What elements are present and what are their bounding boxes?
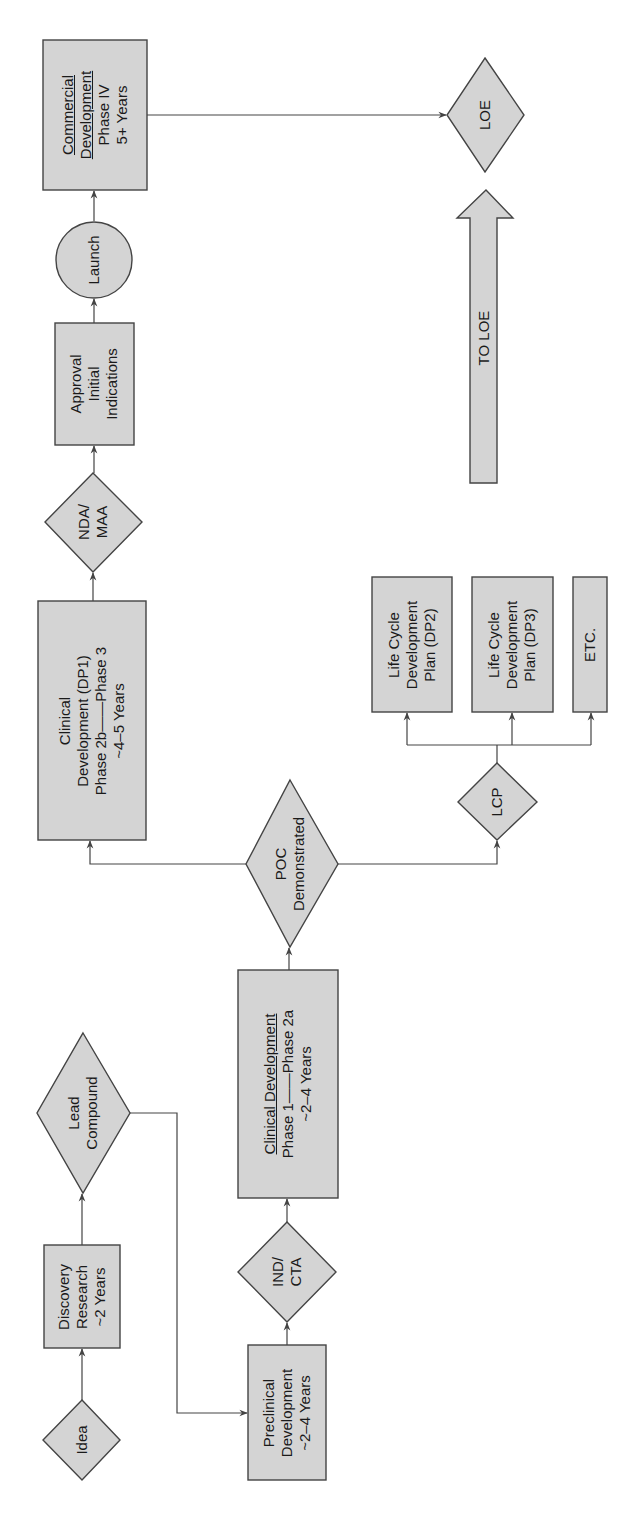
etc-text: ETC. bbox=[581, 628, 599, 662]
idea-label: Idea bbox=[73, 1410, 91, 1470]
lead-line-1: Lead bbox=[65, 1096, 83, 1129]
clinical-1-2a-label: Clinical Development Phase 1——Phase 2a ~… bbox=[260, 974, 316, 1194]
approval-line-3: Indications bbox=[103, 348, 121, 420]
discovery-line-3: ~2 Years bbox=[91, 1268, 109, 1327]
clinical-1-2a-line-2: Phase 1——Phase 2a bbox=[279, 1010, 297, 1158]
dp2-line-3: Plan (DP2) bbox=[421, 608, 439, 681]
lead-compound-label: Lead Compound bbox=[65, 1068, 101, 1158]
commercial-line-2: Development bbox=[77, 71, 95, 159]
dp3-line-3: Plan (DP3) bbox=[521, 608, 539, 681]
commercial-label: Commercial Development Phase IV 5+ Years bbox=[58, 55, 132, 175]
ind-line-1: IND/ bbox=[269, 1257, 287, 1287]
clinical-1-2a-line-1: Clinical Development bbox=[261, 1014, 279, 1155]
lcp-label: LCP bbox=[488, 782, 506, 822]
dp2-line-1: Life Cycle bbox=[385, 612, 403, 678]
ind-line-2: CTA bbox=[287, 1258, 305, 1287]
poc-line-2: Demonstrated bbox=[290, 817, 308, 911]
nda-line-1: NDA/ bbox=[75, 504, 93, 540]
approval-label: Approval Initial Indications bbox=[66, 329, 122, 439]
dp1-line-3: Phase 2b——Phase 3 bbox=[92, 647, 110, 795]
approval-line-1: Approval bbox=[67, 354, 85, 413]
preclinical-line-1: Preclinical bbox=[260, 1379, 278, 1447]
preclinical-line-2: Development bbox=[278, 1369, 296, 1457]
dp2-label: Life Cycle Development Plan (DP2) bbox=[384, 590, 440, 700]
dp1-line-1: Clinical bbox=[56, 697, 74, 745]
dp3-line-2: Development bbox=[503, 601, 521, 689]
edge-poc-dp1 bbox=[90, 841, 246, 864]
to-loe-text: TO LOE bbox=[475, 311, 493, 366]
discovery-line-2: Research bbox=[73, 1265, 91, 1329]
to-loe-label: TO LOE bbox=[475, 298, 493, 378]
clinical-dp1-label: Clinical Development (DP1) Phase 2b——Pha… bbox=[55, 608, 129, 834]
ind-cta-label: IND/ CTA bbox=[269, 1242, 305, 1302]
poc-line-1: POC bbox=[272, 848, 290, 881]
dp1-line-4: ~4–5 Years bbox=[110, 683, 128, 759]
clinical-1-2a-line-3: ~2–4 Years bbox=[297, 1046, 315, 1122]
commercial-line-1: Commercial bbox=[59, 75, 77, 155]
launch-label: Launch bbox=[85, 225, 103, 295]
dp3-line-1: Life Cycle bbox=[485, 612, 503, 678]
commercial-line-4: 5+ Years bbox=[113, 86, 131, 145]
dp3-label: Life Cycle Development Plan (DP3) bbox=[484, 590, 540, 700]
loe-label: LOE bbox=[476, 95, 494, 135]
preclinical-line-3: ~2–4 Years bbox=[296, 1375, 314, 1451]
discovery-label: Discovery Research ~2 Years bbox=[54, 1247, 110, 1347]
connectors bbox=[82, 115, 591, 1413]
nda-maa-label: NDA/ MAA bbox=[75, 492, 111, 552]
dp2-line-2: Development bbox=[403, 601, 421, 689]
lead-line-2: Compound bbox=[83, 1076, 101, 1149]
loe-text: LOE bbox=[476, 100, 494, 130]
poc-label: POC Demonstrated bbox=[272, 809, 308, 919]
edge-lead-preclinical bbox=[130, 1113, 247, 1413]
idea-text: Idea bbox=[73, 1425, 91, 1454]
etc-label: ETC. bbox=[581, 615, 599, 675]
lcp-text: LCP bbox=[488, 787, 506, 816]
edge-poc-lcp bbox=[338, 841, 497, 864]
launch-text: Launch bbox=[85, 235, 103, 284]
discovery-line-1: Discovery bbox=[55, 1264, 73, 1330]
nda-line-2: MAA bbox=[93, 506, 111, 539]
approval-line-2: Initial bbox=[85, 366, 103, 401]
commercial-line-3: Phase IV bbox=[95, 85, 113, 146]
dp1-line-2: Development (DP1) bbox=[74, 655, 92, 787]
preclinical-label: Preclinical Development ~2–4 Years bbox=[259, 1348, 315, 1478]
